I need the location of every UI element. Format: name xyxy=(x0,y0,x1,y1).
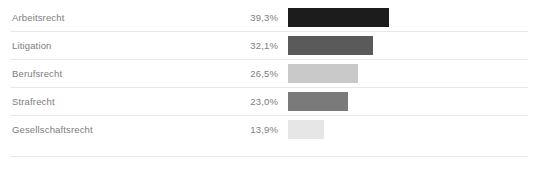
row-label: Berufsrecht xyxy=(12,60,62,87)
chart-bottom-divider xyxy=(10,156,528,157)
table-row[interactable]: Strafrecht 23,0% xyxy=(10,88,528,116)
row-bar-track xyxy=(288,88,528,115)
row-bar-track xyxy=(288,116,528,143)
bar-chart: Arbeitsrecht 39,3% Litigation 32,1% Beru… xyxy=(0,0,538,172)
table-row[interactable]: Arbeitsrecht 39,3% xyxy=(10,4,528,32)
row-value: 32,1% xyxy=(190,32,278,59)
row-bar xyxy=(288,92,348,111)
table-row[interactable]: Berufsrecht 26,5% xyxy=(10,60,528,88)
row-bar xyxy=(288,120,324,139)
row-value: 23,0% xyxy=(190,88,278,115)
row-bar xyxy=(288,8,389,27)
row-label: Strafrecht xyxy=(12,88,55,115)
row-bar xyxy=(288,64,358,83)
row-bar-track xyxy=(288,60,528,87)
table-row[interactable]: Gesellschaftsrecht 13,9% xyxy=(10,116,528,144)
row-bar-track xyxy=(288,4,528,31)
row-bar-track xyxy=(288,32,528,59)
row-label: Litigation xyxy=(12,32,52,59)
chart-row-list: Arbeitsrecht 39,3% Litigation 32,1% Beru… xyxy=(10,4,528,144)
row-value: 26,5% xyxy=(190,60,278,87)
row-label: Gesellschaftsrecht xyxy=(12,116,93,143)
table-row[interactable]: Litigation 32,1% xyxy=(10,32,528,60)
row-value: 39,3% xyxy=(190,4,278,31)
row-value: 13,9% xyxy=(190,116,278,143)
row-bar xyxy=(288,36,373,55)
row-label: Arbeitsrecht xyxy=(12,4,65,31)
